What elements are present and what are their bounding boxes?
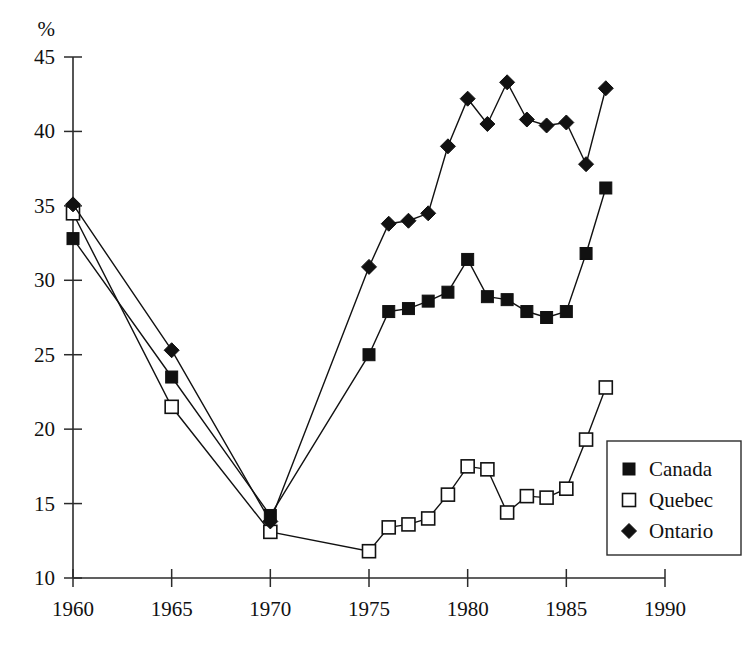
data-point-canada [580,247,592,259]
series-quebec [67,207,613,558]
data-point-quebec [402,518,415,531]
data-point-canada [422,295,434,307]
data-point-ontario [164,343,179,358]
data-point-quebec [422,512,435,525]
y-tick-label: 40 [34,119,55,143]
data-point-ontario [559,115,574,130]
legend-label-canada: Canada [649,457,713,481]
chart-container: 1015202530354045 19601965197019751980198… [0,0,745,646]
y-tick-label: 30 [34,268,55,292]
legend-marker-quebec [623,494,636,507]
series-line-ontario [73,82,606,521]
data-point-canada [363,349,375,361]
data-point-quebec [580,433,593,446]
data-point-canada [67,233,79,245]
data-point-quebec [461,460,474,473]
legend-label-quebec: Quebec [649,488,713,512]
y-tick-label: 10 [34,566,55,590]
x-tick-label: 1975 [348,597,390,621]
x-tick-label: 1980 [447,597,489,621]
x-tick-label: 1985 [545,597,587,621]
data-point-ontario [539,118,554,133]
data-point-quebec [363,545,376,558]
data-point-canada [560,306,572,318]
data-point-quebec [165,400,178,413]
data-point-canada [166,371,178,383]
data-point-ontario [440,139,455,154]
data-point-canada [442,286,454,298]
data-point-quebec [560,482,573,495]
data-series-group [66,75,614,558]
x-axis-tick-labels: 1960196519701975198019851990 [52,597,686,621]
y-tick-label: 35 [34,194,55,218]
series-canada [67,182,612,521]
data-point-ontario [480,116,495,131]
data-point-ontario [598,81,613,96]
x-tick-label: 1960 [52,597,94,621]
data-point-quebec [382,521,395,534]
data-point-ontario [519,112,534,127]
x-tick-label: 1990 [644,597,686,621]
data-point-canada [521,306,533,318]
data-point-canada [402,303,414,315]
data-point-ontario [579,157,594,172]
data-point-canada [481,291,493,303]
data-point-ontario [500,75,515,90]
data-point-quebec [441,488,454,501]
data-point-ontario [421,206,436,221]
data-point-canada [600,182,612,194]
legend-marker-canada [623,463,635,475]
y-tick-label: 15 [34,492,55,516]
x-tick-label: 1970 [249,597,291,621]
data-point-quebec [599,381,612,394]
data-point-ontario [460,91,475,106]
y-tick-label: 20 [34,417,55,441]
x-tick-label: 1965 [151,597,193,621]
y-axis-tick-labels: 1015202530354045 [34,45,55,590]
line-chart: 1015202530354045 19601965197019751980198… [0,0,745,646]
data-point-quebec [520,490,533,503]
data-point-quebec [501,506,514,519]
y-tick-label: 25 [34,343,55,367]
data-point-canada [541,312,553,324]
data-point-quebec [481,463,494,476]
data-point-ontario [381,216,396,231]
data-point-canada [462,253,474,265]
data-point-ontario [362,259,377,274]
data-point-canada [383,306,395,318]
data-point-ontario [401,213,416,228]
y-tick-label: 45 [34,45,55,69]
series-line-canada [73,188,606,516]
chart-axes [73,57,665,578]
legend-label-ontario: Ontario [649,519,713,543]
data-point-quebec [540,491,553,504]
y-axis-unit-label: % [38,17,56,41]
chart-legend: CanadaQuebecOntario [607,441,741,555]
series-ontario [66,75,614,529]
data-point-canada [501,294,513,306]
